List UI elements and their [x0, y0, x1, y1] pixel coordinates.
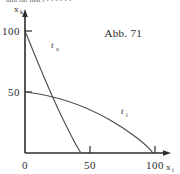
x-tick-label-0: 0: [22, 159, 28, 171]
curve-label-t-a-subscript: a: [56, 46, 59, 52]
plot-svg: 100 50 0 50 100 x k x i t a t i Abb. 71: [0, 0, 180, 174]
figure-caption: Abb. 71: [104, 27, 142, 39]
y-tick-label-50: 50: [8, 86, 20, 98]
y-tick-label-100: 100: [2, 25, 20, 37]
curve-label-t-i-subscript: i: [126, 112, 128, 118]
y-axis-label: x: [14, 4, 19, 14]
y-axis-label-subscript: k: [20, 9, 23, 15]
figure-abb-71: und für den t - - - - - - 100 50 0 50 10…: [0, 0, 180, 174]
x-axis-label: x: [166, 162, 171, 172]
x-axis-label-subscript: i: [172, 167, 174, 173]
x-tick-label-100: 100: [146, 159, 164, 171]
curve-label-t-i: t: [121, 106, 124, 116]
x-axis-arrow-icon: [163, 150, 171, 156]
curve-t-i: [25, 92, 153, 153]
curve-label-t-a: t: [51, 40, 54, 50]
x-tick-label-50: 50: [84, 159, 96, 171]
y-axis-arrow-icon: [22, 9, 28, 17]
